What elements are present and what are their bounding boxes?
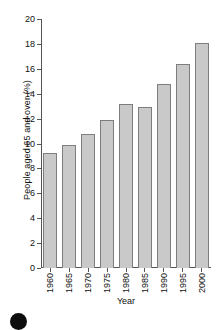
- x-tick-mark: [163, 268, 164, 272]
- x-tick-label: 1965: [65, 273, 74, 293]
- x-tick-label: 1985: [140, 273, 149, 293]
- x-tick-label: 1960: [46, 273, 55, 293]
- y-tick-label: 6: [30, 189, 35, 198]
- y-tick-mark: [37, 268, 41, 269]
- x-tick-mark: [107, 268, 108, 272]
- y-tick-label: 20: [25, 15, 35, 24]
- y-tick-label: 4: [30, 214, 35, 223]
- bar: [100, 120, 114, 268]
- x-tick-mark: [126, 268, 127, 272]
- bar-slot: 1975: [98, 19, 117, 268]
- x-tick-label: 1995: [178, 273, 187, 293]
- x-tick-label: 1980: [122, 273, 131, 293]
- x-tick-mark: [182, 268, 183, 272]
- bar: [138, 107, 152, 268]
- bar: [119, 104, 133, 268]
- y-tick-label: 2: [30, 239, 35, 248]
- y-tick-label: 16: [25, 64, 35, 73]
- bar: [176, 64, 190, 268]
- bar-slot: 2000: [192, 19, 211, 268]
- x-tick-mark: [88, 268, 89, 272]
- bar: [81, 134, 95, 268]
- bar-series: 196019651970197519801985199019952000: [41, 19, 211, 268]
- x-axis-title: Year: [41, 296, 211, 306]
- bar: [195, 43, 209, 268]
- x-tick-mark: [201, 268, 202, 272]
- bar: [62, 145, 76, 268]
- bar-slot: 1960: [41, 19, 60, 268]
- bar-slot: 1985: [135, 19, 154, 268]
- bar-slot: 1995: [173, 19, 192, 268]
- y-tick-label: 8: [30, 164, 35, 173]
- x-tick-mark: [69, 268, 70, 272]
- filled-circle-icon: [10, 313, 27, 330]
- y-tick-label: 14: [25, 89, 35, 98]
- bar-slot: 1970: [79, 19, 98, 268]
- x-tick-label: 1990: [159, 273, 168, 293]
- y-tick-label: 10: [25, 139, 35, 148]
- x-tick-label: 2000: [197, 273, 206, 293]
- bar-slot: 1990: [154, 19, 173, 268]
- y-tick-label: 18: [25, 39, 35, 48]
- bar: [157, 84, 171, 268]
- bar-slot: 1980: [117, 19, 136, 268]
- y-tick-label: 0: [30, 264, 35, 273]
- plot-area: 20181614121086420 1960196519701975198019…: [41, 19, 211, 268]
- x-tick-mark: [50, 268, 51, 272]
- bar-slot: 1965: [60, 19, 79, 268]
- x-tick-label: 1970: [84, 273, 93, 293]
- y-tick-label: 12: [25, 114, 35, 123]
- x-tick-mark: [144, 268, 145, 272]
- bar: [43, 153, 57, 268]
- x-tick-label: 1975: [103, 273, 112, 293]
